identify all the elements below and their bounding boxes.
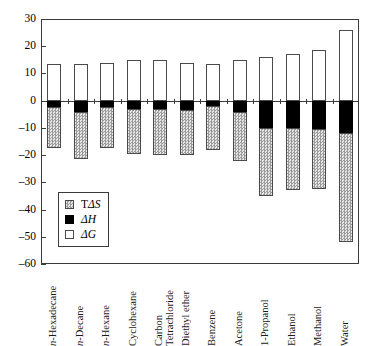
y-axis-tick-mark — [41, 73, 46, 74]
x-axis-category-label: Cyclohexane — [127, 268, 138, 346]
bar-segment-delta-g — [153, 60, 167, 101]
bar-segment-delta-g — [206, 64, 220, 101]
x-axis-tick-mark — [306, 99, 307, 104]
y-axis-tick-label: 20 — [0, 40, 36, 52]
bar-segment-t-delta-s — [206, 106, 220, 150]
bar-segment-t-delta-s — [339, 133, 353, 242]
bar-column — [127, 19, 141, 264]
bar-segment-delta-g — [127, 60, 141, 101]
x-axis-category-label: n-Hexadecane — [47, 268, 58, 346]
bar-segment-delta-g — [259, 57, 273, 101]
x-axis-category-label: Benzene — [206, 268, 217, 346]
legend-swatch-white — [65, 230, 74, 239]
y-axis-tick-label: 0 — [0, 95, 36, 107]
legend-label: ΔH — [81, 214, 96, 226]
y-axis-tick-mark — [41, 155, 46, 156]
bar-segment-delta-g — [233, 60, 247, 101]
y-axis-tick-mark — [41, 264, 46, 265]
legend-label: TΔS — [81, 199, 101, 211]
y-axis-tick-mark — [41, 19, 46, 20]
bar-column — [206, 19, 220, 264]
bar-segment-t-delta-s — [312, 129, 326, 189]
chart-legend: TΔSΔHΔG — [58, 192, 109, 247]
bar-segment-t-delta-s — [233, 112, 247, 161]
legend-item: ΔG — [65, 227, 101, 242]
bar-segment-t-delta-s — [259, 128, 273, 196]
x-axis-tick-mark — [174, 99, 175, 104]
legend-swatch-hatched — [65, 200, 74, 209]
bar-segment-delta-h — [312, 101, 326, 130]
bar-segment-delta-g — [286, 54, 300, 100]
y-axis-tick-label: –60 — [0, 258, 36, 270]
bar-segment-delta-g — [180, 63, 194, 101]
bar-segment-delta-g — [100, 63, 114, 101]
bar-segment-delta-h — [339, 101, 353, 134]
bar-segment-t-delta-s — [153, 109, 167, 155]
x-axis-tick-mark — [94, 99, 95, 104]
y-axis-tick-mark — [41, 182, 46, 183]
y-axis-tick-label: –10 — [0, 122, 36, 134]
y-axis-tick-label: –20 — [0, 149, 36, 161]
bar-segment-delta-h — [286, 101, 300, 128]
x-axis-tick-mark — [200, 99, 201, 104]
legend-item: ΔH — [65, 212, 101, 227]
x-axis-category-label: Acetone — [233, 268, 244, 346]
bar-column — [312, 19, 326, 264]
y-axis-tick-mark — [41, 210, 46, 211]
bar-segment-delta-h — [47, 101, 61, 108]
y-axis-tick-label: 30 — [0, 13, 36, 25]
bar-segment-delta-h — [153, 101, 167, 109]
x-axis-tick-mark — [121, 99, 122, 104]
x-axis-category-label: CarbonTetrachloride — [153, 268, 175, 346]
legend-item: TΔS — [65, 197, 101, 212]
bar-segment-delta-g — [312, 50, 326, 100]
x-axis-category-label: Ethanol — [286, 268, 297, 346]
bar-segment-t-delta-s — [180, 110, 194, 155]
bar-column — [180, 19, 194, 264]
x-axis-category-label: Methanol — [312, 268, 323, 346]
legend-swatch-black — [65, 215, 74, 224]
bar-column — [233, 19, 247, 264]
bar-segment-delta-h — [180, 101, 194, 111]
x-axis-tick-mark — [333, 99, 334, 104]
bar-segment-delta-h — [74, 101, 88, 112]
x-axis-tick-mark — [253, 99, 254, 104]
x-axis-tick-mark — [280, 99, 281, 104]
bar-segment-delta-h — [100, 101, 114, 108]
bar-segment-t-delta-s — [100, 107, 114, 148]
bar-segment-delta-h — [259, 101, 273, 128]
x-axis-category-label: Diethyl ether — [180, 268, 191, 346]
y-axis-tick-label: –30 — [0, 176, 36, 188]
bar-segment-t-delta-s — [47, 107, 61, 148]
x-axis-category-label: n-Decane — [74, 268, 85, 346]
bar-segment-delta-g — [47, 64, 61, 101]
bar-segment-delta-g — [74, 64, 88, 101]
bar-column — [286, 19, 300, 264]
x-axis-tick-mark — [68, 99, 69, 104]
x-axis-tick-mark — [147, 99, 148, 104]
bar-segment-delta-h — [127, 101, 141, 109]
bar-column — [259, 19, 273, 264]
y-axis-tick-label: –40 — [0, 204, 36, 216]
y-axis-tick-mark — [41, 128, 46, 129]
x-axis-category-label: Water — [339, 268, 350, 346]
y-axis-tick-mark — [41, 46, 46, 47]
legend-label: ΔG — [81, 229, 96, 241]
y-axis-tick-label: 10 — [0, 67, 36, 79]
bar-column — [339, 19, 353, 264]
bar-segment-t-delta-s — [286, 128, 300, 191]
y-axis-tick-label: –50 — [0, 231, 36, 243]
x-axis-category-label: 1-Propanol — [259, 268, 270, 346]
y-axis-tick-mark — [41, 237, 46, 238]
bar-column — [153, 19, 167, 264]
bar-segment-t-delta-s — [127, 109, 141, 154]
bar-segment-t-delta-s — [74, 112, 88, 160]
thermodynamics-bar-chart: 3020100–10–20–30–40–50–60 n-Hexadecanen-… — [0, 0, 368, 346]
x-axis-tick-mark — [227, 99, 228, 104]
bar-segment-delta-h — [233, 101, 247, 112]
bar-segment-delta-g — [339, 30, 353, 101]
x-axis-category-label: n-Hexane — [100, 268, 111, 346]
